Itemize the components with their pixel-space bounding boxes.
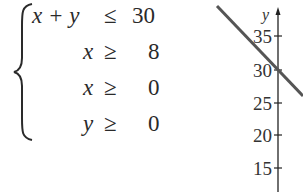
rhs: 8: [148, 40, 160, 63]
left-brace-icon: [12, 2, 34, 142]
lhs: y: [83, 112, 93, 135]
tick-label-30: 30: [232, 61, 272, 80]
lhs: x: [83, 40, 93, 63]
boundary-line-x-plus-y-30: [217, 6, 303, 96]
rhs: 0: [148, 112, 160, 135]
relation: ≥: [104, 112, 117, 135]
inequality-system: x + y ≤ 30 x ≥ 8 x ≥ 0 y ≥ 0: [0, 0, 180, 150]
relation: ≥: [104, 76, 117, 99]
y-axis-arrow-icon: [276, 7, 281, 15]
lhs: x: [83, 76, 93, 99]
rhs: 30: [132, 4, 155, 27]
tick-label-35: 35: [232, 27, 272, 46]
graph: y 35 30 25 20 15: [180, 0, 303, 192]
tick-label-25: 25: [232, 94, 272, 113]
relation: ≤: [104, 4, 117, 27]
lhs: x + y: [32, 4, 79, 27]
tick-label-15: 15: [232, 159, 272, 178]
relation: ≥: [104, 40, 117, 63]
y-axis-label: y: [262, 6, 269, 24]
rhs: 0: [148, 76, 160, 99]
tick-label-20: 20: [232, 126, 272, 145]
